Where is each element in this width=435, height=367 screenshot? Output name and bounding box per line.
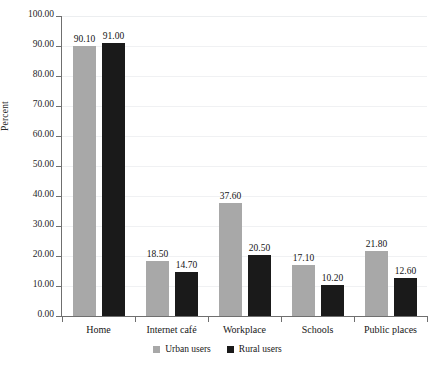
legend-item[interactable]: Urban users (153, 344, 211, 354)
y-axis-tick (56, 286, 62, 287)
y-axis-tick-label: 40.00 (33, 189, 54, 199)
x-axis-tick (281, 316, 282, 322)
x-axis-category-label: Home (62, 324, 135, 335)
y-axis-tick-label: 30.00 (33, 219, 54, 229)
y-axis-tick (56, 196, 62, 197)
bar-urban[interactable]: 17.10 (292, 265, 315, 316)
bar-rural[interactable]: 14.70 (175, 272, 198, 316)
bar-value-label: 20.50 (249, 243, 270, 253)
y-axis-tick-label: 100.00 (28, 9, 54, 19)
y-axis-tick-label: 10.00 (33, 279, 54, 289)
bar-rural[interactable]: 10.20 (321, 285, 344, 316)
bar-value-label: 14.70 (176, 260, 197, 270)
x-axis-tick (135, 316, 136, 322)
bar-group: 37.6020.50 (219, 16, 271, 316)
bar-value-label: 90.10 (74, 34, 95, 44)
x-axis-category-label: Public places (354, 324, 427, 335)
bar-chart-figure: Percent 0.0010.0020.0030.0040.0050.0060.… (0, 0, 435, 367)
bar-urban[interactable]: 21.80 (365, 251, 388, 316)
y-axis-tick-label: 70.00 (33, 99, 54, 109)
bar-group: 18.5014.70 (146, 16, 198, 316)
legend-item[interactable]: Rural users (227, 344, 282, 354)
bar-value-label: 37.60 (220, 191, 241, 201)
x-axis-line (60, 316, 427, 317)
x-axis-category-label: Workplace (208, 324, 281, 335)
x-axis-tick (208, 316, 209, 322)
y-axis-tick-label: 80.00 (33, 69, 54, 79)
y-axis-tick (56, 46, 62, 47)
y-axis-tick (56, 106, 62, 107)
bar-group: 90.1091.00 (73, 16, 125, 316)
y-axis-tick-label: 60.00 (33, 129, 54, 139)
bar-group: 21.8012.60 (365, 16, 417, 316)
bar-value-label: 10.20 (322, 273, 343, 283)
y-axis-tick (56, 226, 62, 227)
y-axis-tick (56, 16, 62, 17)
bar-group: 17.1010.20 (292, 16, 344, 316)
x-axis-tick (354, 316, 355, 322)
legend-swatch-icon (227, 346, 234, 353)
bar-value-label: 18.50 (147, 249, 168, 259)
bar-urban[interactable]: 90.10 (73, 46, 96, 316)
bar-value-label: 91.00 (103, 31, 124, 41)
bar-urban[interactable]: 18.50 (146, 261, 169, 317)
y-axis-tick-label: 20.00 (33, 249, 54, 259)
y-axis-tick (56, 76, 62, 77)
bar-value-label: 21.80 (366, 239, 387, 249)
bar-rural[interactable]: 20.50 (248, 255, 271, 317)
y-axis-tick-label: 0.00 (37, 309, 54, 319)
y-axis-tick (56, 166, 62, 167)
y-axis-tick (56, 256, 62, 257)
bar-value-label: 12.60 (395, 266, 416, 276)
plot-area: 0.0010.0020.0030.0040.0050.0060.0070.008… (62, 16, 427, 316)
y-axis-tick-label: 90.00 (33, 39, 54, 49)
x-axis-tick (427, 316, 428, 322)
bar-rural[interactable]: 91.00 (102, 43, 125, 316)
x-axis-category-label: Schools (281, 324, 354, 335)
y-axis-tick (56, 136, 62, 137)
x-axis-category-label: Internet café (135, 324, 208, 335)
bar-urban[interactable]: 37.60 (219, 203, 242, 316)
y-axis-tick-label: 50.00 (33, 159, 54, 169)
legend-label: Urban users (165, 344, 211, 354)
legend-swatch-icon (153, 346, 160, 353)
y-axis-title: Percent (0, 71, 14, 161)
chart-legend: Urban usersRural users (0, 344, 435, 354)
x-axis-tick (62, 316, 63, 322)
bar-value-label: 17.10 (293, 253, 314, 263)
legend-label: Rural users (239, 344, 282, 354)
bar-rural[interactable]: 12.60 (394, 278, 417, 316)
